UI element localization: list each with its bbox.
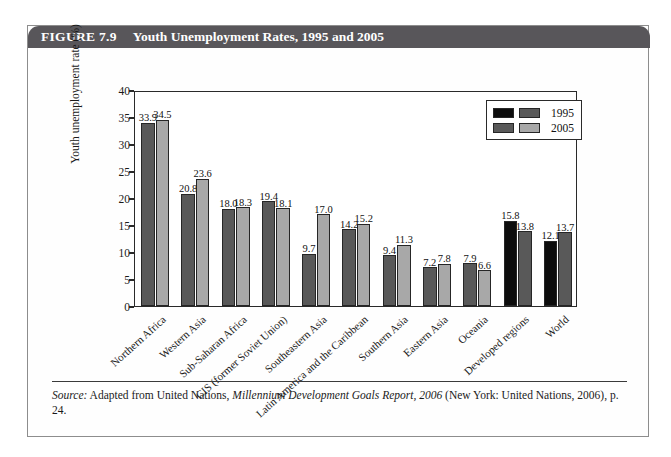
bar-value-label: 7.9 <box>463 254 476 265</box>
bar[interactable]: 13.7 <box>558 232 572 306</box>
source-text-before: Adapted from United Nations, <box>87 389 232 401</box>
legend-swatch <box>519 108 540 118</box>
y-axis-title: Youth unemployment rate (%) <box>69 0 81 189</box>
y-axis-tick-label: 5 <box>104 274 130 286</box>
legend-swatch <box>493 108 514 118</box>
bar[interactable]: 33.9 <box>141 123 155 306</box>
bar-group: 9.411.3 <box>377 90 417 306</box>
bar-value-label: 7.8 <box>438 254 451 265</box>
bar-value-label: 13.8 <box>516 222 534 233</box>
x-axis-label: World <box>543 313 571 340</box>
plot-frame: 33.934.520.823.618.018.319.418.19.717.01… <box>134 91 577 307</box>
bar-value-label: 11.3 <box>395 235 413 246</box>
bar-group: 14.215.2 <box>336 90 376 306</box>
source-label: Source: <box>52 389 87 401</box>
bar[interactable]: 34.5 <box>156 120 170 306</box>
legend-label: 2005 <box>551 122 574 134</box>
x-axis-label: Oceania <box>456 313 491 346</box>
bar-value-label: 9.7 <box>302 244 315 255</box>
source-note: Source: Adapted from United Nations, Mil… <box>52 388 630 418</box>
source-title-italic: Millennium Development Goals Report, 200… <box>232 389 442 401</box>
y-axis-tick-labels: 0510152025303540 <box>100 91 130 307</box>
bar[interactable]: 17.0 <box>317 214 331 306</box>
bar-value-label: 34.5 <box>153 110 171 121</box>
source-divider <box>52 381 627 382</box>
legend-row: 1995 <box>493 105 574 120</box>
bar-value-label: 6.6 <box>478 261 491 272</box>
bar-group: 33.934.5 <box>135 90 175 306</box>
bar-value-label: 20.8 <box>179 184 197 195</box>
bar[interactable]: 13.8 <box>518 231 532 306</box>
x-axis-label: Northern Africa <box>108 313 168 369</box>
bar-group: 9.717.0 <box>296 90 336 306</box>
y-axis-tick-label: 25 <box>104 166 130 178</box>
bar[interactable]: 7.9 <box>463 263 477 306</box>
bar-group: 19.418.1 <box>256 90 296 306</box>
bar-group: 18.018.3 <box>216 90 256 306</box>
bar[interactable]: 18.0 <box>222 209 236 306</box>
bar[interactable]: 19.4 <box>262 201 276 306</box>
bar[interactable]: 23.6 <box>196 179 210 306</box>
figure-header-bar: FIGURE 7.9 Youth Unemployment Rates, 199… <box>28 26 650 48</box>
bar[interactable]: 15.2 <box>357 224 371 306</box>
bar-value-label: 9.4 <box>383 246 396 257</box>
bar-value-label: 17.0 <box>314 205 332 216</box>
bar[interactable]: 7.8 <box>438 264 452 306</box>
legend-swatch <box>493 123 514 133</box>
bar-group: 20.823.6 <box>175 90 215 306</box>
bar-value-label: 13.7 <box>556 223 574 234</box>
y-axis-tick-label: 35 <box>104 112 130 124</box>
bar-value-label: 18.3 <box>234 198 252 209</box>
figure-container: FIGURE 7.9 Youth Unemployment Rates, 199… <box>27 25 649 437</box>
bar[interactable]: 11.3 <box>397 245 411 306</box>
bar[interactable]: 15.8 <box>504 221 518 306</box>
chart-legend: 19952005 <box>486 100 582 140</box>
y-axis-tick-label: 30 <box>104 139 130 151</box>
y-axis-tick-label: 20 <box>104 193 130 205</box>
bar[interactable]: 9.4 <box>383 255 397 306</box>
bar-group: 7.27.8 <box>417 90 457 306</box>
y-axis-tick-label: 40 <box>104 85 130 97</box>
bar-value-label: 23.6 <box>193 169 211 180</box>
y-axis-tick-label: 15 <box>104 220 130 232</box>
bar[interactable]: 12.1 <box>544 241 558 306</box>
bar-value-label: 15.2 <box>355 214 373 225</box>
bar[interactable]: 20.8 <box>181 194 195 306</box>
y-axis-tick-label: 10 <box>104 247 130 259</box>
chart-area: Youth unemployment rate (%) 051015202530… <box>28 48 650 398</box>
bar[interactable]: 14.2 <box>342 229 356 306</box>
y-axis-tick-label: 0 <box>104 301 130 313</box>
legend-swatch <box>519 123 540 133</box>
bar[interactable]: 7.2 <box>423 267 437 306</box>
bar[interactable]: 18.3 <box>236 207 250 306</box>
bar[interactable]: 9.7 <box>302 254 316 306</box>
legend-label: 1995 <box>551 107 574 119</box>
bar[interactable]: 18.1 <box>276 208 290 306</box>
bar-value-label: 18.1 <box>274 199 292 210</box>
x-axis-category-labels: Northern AfricaWestern AsiaSub-Saharan A… <box>134 307 577 397</box>
bar-value-label: 7.2 <box>423 258 436 269</box>
bar[interactable]: 6.6 <box>478 270 492 306</box>
figure-title: Youth Unemployment Rates, 1995 and 2005 <box>133 29 384 45</box>
legend-row: 2005 <box>493 120 574 135</box>
